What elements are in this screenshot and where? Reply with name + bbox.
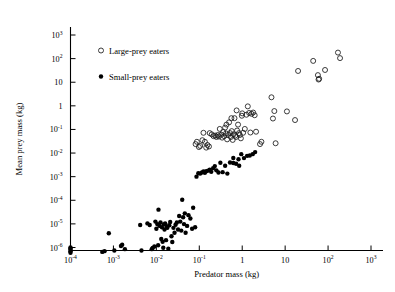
y-tick-label: 10-6: [50, 242, 63, 252]
y-tick-label: 102: [52, 53, 63, 63]
y-tick-label: 10: [54, 78, 62, 87]
data-point-small-prey: [168, 220, 172, 224]
x-tick-label: 10-2: [150, 254, 163, 264]
data-point-small-prey: [213, 164, 217, 168]
data-point-small-prey: [236, 157, 240, 161]
data-point-small-prey: [193, 225, 197, 229]
data-point-large-prey: [269, 95, 274, 100]
data-point-large-prey: [311, 58, 316, 63]
data-point-small-prey: [138, 223, 142, 227]
data-point-small-prey: [209, 170, 213, 174]
data-point-small-prey: [120, 243, 124, 247]
data-point-large-prey: [272, 109, 277, 114]
legend: Large-prey eatersSmall-prey eaters: [99, 46, 171, 82]
data-point-small-prey: [178, 219, 182, 223]
data-point-small-prey: [164, 238, 168, 242]
legend-marker-small-prey: [99, 74, 103, 78]
data-point-small-prey: [216, 170, 220, 174]
y-tick-label: 10-1: [50, 124, 63, 134]
plot-canvas: 10310210110-110-210-310-410-510-6 10-410…: [0, 0, 395, 292]
legend-label: Small-prey eaters: [109, 72, 170, 82]
data-point-large-prey: [273, 141, 278, 146]
scatter-plot-figure: 10310210110-110-210-310-410-510-6 10-410…: [0, 0, 395, 292]
data-point-small-prey: [177, 214, 181, 218]
data-point-small-prey: [218, 161, 222, 165]
data-point-small-prey: [220, 170, 224, 174]
data-point-small-prey: [152, 244, 156, 248]
data-point-small-prey: [239, 152, 243, 156]
y-tick-label: 103: [52, 30, 63, 40]
x-tick-label: 10-3: [107, 254, 120, 264]
data-point-small-prey: [223, 164, 227, 168]
data-point-small-prey: [183, 231, 187, 235]
y-tick-label: 10-2: [50, 148, 63, 158]
data-point-large-prey: [323, 67, 328, 72]
data-point-large-prey: [229, 116, 234, 121]
data-point-small-prey: [180, 198, 184, 202]
y-axis-title: Mean prey mass (kg): [14, 102, 24, 175]
data-point-large-prey: [254, 129, 259, 134]
data-point-small-prey: [181, 215, 185, 219]
data-point-small-prey: [139, 248, 143, 252]
data-point-small-prey: [112, 248, 116, 252]
data-point-small-prey: [172, 231, 176, 235]
x-axis-title: Predator mass (kg): [194, 269, 259, 279]
data-point-small-prey: [185, 224, 189, 228]
data-point-small-prey: [170, 240, 174, 244]
data-point-small-prey: [148, 223, 152, 227]
data-point-small-prey: [123, 247, 127, 251]
axes: [71, 27, 384, 251]
data-point-small-prey: [107, 231, 111, 235]
data-point-small-prey: [68, 251, 72, 255]
x-tick-label: 1: [240, 256, 244, 265]
data-point-large-prey: [270, 116, 275, 121]
data-point-small-prey: [237, 164, 241, 168]
data-point-small-prey: [156, 207, 160, 211]
data-point-large-prey: [238, 136, 243, 141]
data-point-small-prey: [231, 156, 235, 160]
data-point-large-prey: [236, 122, 241, 127]
x-axis-ticks: 10-410-310-210-1110102103: [64, 246, 377, 265]
data-point-large-prey: [245, 104, 250, 109]
data-point-small-prey: [166, 247, 170, 251]
x-tick-label: 10: [281, 256, 289, 265]
y-tick-label: 10-3: [50, 171, 63, 181]
data-point-small-prey: [102, 249, 106, 253]
data-point-small-prey: [68, 245, 72, 249]
y-tick-label: 1: [58, 102, 62, 111]
data-point-small-prey: [188, 216, 192, 220]
y-axis-ticks: 10310210110-110-210-310-410-510-6: [50, 30, 76, 253]
data-point-small-prey: [253, 150, 257, 154]
data-point-large-prey: [338, 56, 343, 61]
x-tick-label: 10-4: [64, 254, 77, 264]
y-tick-label: 10-5: [50, 218, 63, 228]
x-tick-label: 103: [366, 254, 377, 264]
x-tick-label: 102: [323, 254, 334, 264]
data-point-large-prey: [296, 68, 301, 73]
data-point-large-prey: [248, 130, 253, 135]
data-point-large-prey: [201, 130, 206, 135]
legend-marker-large-prey: [99, 48, 104, 53]
data-point-small-prey: [161, 246, 165, 250]
data-point-large-prey: [234, 108, 239, 113]
y-tick-label: 10-4: [50, 195, 63, 205]
legend-label: Large-prey eaters: [109, 46, 170, 56]
data-point-small-prey: [156, 243, 160, 247]
data-point-large-prey: [335, 50, 340, 55]
x-tick-label: 10-1: [193, 254, 206, 264]
data-point-small-prey: [191, 206, 195, 210]
data-point-small-prey: [179, 228, 183, 232]
data-point-large-prey: [293, 118, 298, 123]
data-point-small-prey: [169, 234, 173, 238]
data-point-small-prey: [225, 171, 229, 175]
data-point-large-prey: [284, 109, 289, 114]
data-point-large-prey: [223, 125, 228, 130]
data-point-large-prey: [198, 143, 203, 148]
